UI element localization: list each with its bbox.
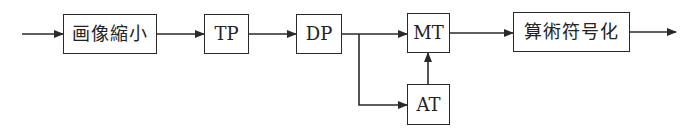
node-label: DP — [306, 25, 333, 43]
node-arithmetic-coding: 算術符号化 — [513, 12, 630, 52]
node-tp: TP — [204, 14, 249, 54]
node-mt: MT — [407, 13, 450, 53]
arrow-dp-to-at — [359, 34, 407, 105]
node-label: 算術符号化 — [524, 23, 619, 41]
node-label: TP — [214, 25, 238, 43]
node-label: 画像縮小 — [72, 25, 148, 43]
node-dp: DP — [296, 14, 342, 54]
node-label: MT — [413, 24, 443, 42]
node-at: AT — [407, 84, 450, 125]
node-image-shrink: 画像縮小 — [63, 14, 157, 54]
block-diagram: 画像縮小 TP DP MT AT 算術符号化 — [0, 0, 700, 129]
node-label: AT — [416, 96, 440, 114]
